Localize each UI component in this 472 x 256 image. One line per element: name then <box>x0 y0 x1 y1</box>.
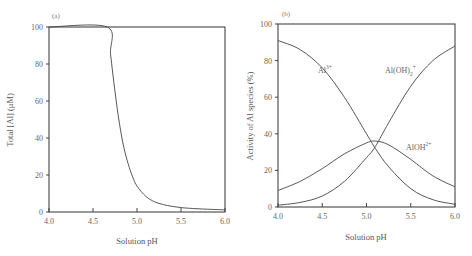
y-tick-label: 80 <box>264 57 272 66</box>
total-al-curve <box>49 25 225 210</box>
y-tick-label: 40 <box>35 134 43 143</box>
ticks-a: 4.04.55.05.56.0020406080100 <box>31 23 230 226</box>
x-axis-label-b: Solution pH <box>345 232 386 242</box>
x-tick-label: 4.5 <box>88 217 98 226</box>
panel-label-b: (b) <box>282 10 291 18</box>
x-tick-label: 5.0 <box>362 212 372 221</box>
chart-a: (a) 4.04.55.05.56.0020406080100 Solution… <box>5 12 230 246</box>
y-tick-label: 80 <box>35 60 43 69</box>
y-tick-label: 100 <box>260 20 272 29</box>
x-tick-label: 4.5 <box>317 212 327 221</box>
y-tick-label: 100 <box>31 23 43 32</box>
y-tick-label: 60 <box>35 97 43 106</box>
y-tick-label: 40 <box>264 130 272 139</box>
y-axis-label-b: Activity of Al species (%) <box>245 71 255 160</box>
y-tick-label: 60 <box>264 93 272 102</box>
x-tick-label: 4.0 <box>44 217 54 226</box>
aloh-2plus-curve <box>278 141 455 191</box>
y-tick-label: 0 <box>39 208 43 217</box>
panel-label-a: (a) <box>52 12 60 20</box>
ticks-b: 4.04.55.05.56.0020406080100 <box>260 20 460 221</box>
x-tick-label: 5.5 <box>406 212 416 221</box>
x-axis-label-a: Solution pH <box>116 236 157 246</box>
x-tick-label: 4.0 <box>273 212 283 221</box>
x-tick-label: 6.0 <box>450 212 460 221</box>
y-tick-label: 20 <box>35 171 43 180</box>
series-label-al3: Al3+ <box>318 64 332 75</box>
x-tick-label: 5.0 <box>132 217 142 226</box>
series-label-aloh2-plus: Al(OH)2+ <box>385 64 416 77</box>
y-tick-label: 20 <box>264 166 272 175</box>
plot-frame-a <box>49 27 225 212</box>
y-axis-label-a: Total [Al] (μM) <box>5 93 15 147</box>
series-label-aloh-2plus: AlOH2+ <box>406 141 431 152</box>
chart-b: (b) 4.04.55.05.56.0020406080100 Al3+ Al(… <box>245 10 460 242</box>
figure: (a) 4.04.55.05.56.0020406080100 Solution… <box>0 0 472 256</box>
x-tick-label: 6.0 <box>220 217 230 226</box>
aloh2-plus-curve <box>278 46 455 205</box>
x-tick-label: 5.5 <box>176 217 186 226</box>
y-tick-label: 0 <box>268 203 272 212</box>
